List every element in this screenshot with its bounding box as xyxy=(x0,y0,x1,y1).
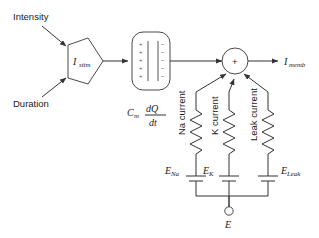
capacitor-block[interactable]: + + + + + − − − − − xyxy=(132,32,170,90)
capacitance-coefficient-main: C xyxy=(127,107,134,118)
summing-junction[interactable]: + xyxy=(222,48,248,74)
leak-battery-sub: Leak xyxy=(286,170,301,177)
svg-text:−: − xyxy=(161,41,165,47)
potassium-current-label: K current xyxy=(209,96,220,135)
formula-numerator: dQ xyxy=(146,103,159,114)
branch-leak[interactable]: Leak current E Leak xyxy=(248,88,301,196)
ground-terminal[interactable]: E xyxy=(224,196,233,230)
duration-label: Duration xyxy=(13,98,49,109)
branch-potassium[interactable]: K current E K xyxy=(202,96,239,207)
ground-terminal-label: E xyxy=(224,219,231,230)
sodium-battery-sub: Na xyxy=(170,170,180,177)
diagram-canvas: Intensity Duration I stim + + + xyxy=(0,0,319,238)
svg-text:+: + xyxy=(139,41,143,47)
svg-text:−: − xyxy=(161,73,165,79)
svg-text:−: − xyxy=(161,65,165,71)
capacitor-negative-charges: − − − − − xyxy=(161,41,165,79)
svg-text:−: − xyxy=(161,57,165,63)
capacitance-coefficient-sub: m xyxy=(134,112,139,119)
leak-current-label: Leak current xyxy=(248,88,259,141)
capacitor-positive-charges: + + + + + xyxy=(139,41,143,79)
stimulus-block[interactable]: I stim xyxy=(68,38,103,84)
sum-operator: + xyxy=(232,56,238,67)
stimulus-label-sub: stim xyxy=(79,61,90,68)
svg-text:+: + xyxy=(139,57,143,63)
potassium-battery-sub: K xyxy=(208,170,214,177)
capacitance-formula: C m dQ dt xyxy=(127,103,166,128)
stimulus-label-main: I xyxy=(72,56,77,67)
svg-text:−: − xyxy=(161,49,165,55)
output-label-sub: memb xyxy=(289,61,306,68)
svg-text:+: + xyxy=(139,49,143,55)
intensity-label: Intensity xyxy=(13,11,49,22)
sodium-current-label: Na current xyxy=(176,90,187,135)
branch-sodium[interactable]: Na current E Na xyxy=(164,90,206,196)
output-label-main: I xyxy=(283,56,288,67)
svg-text:+: + xyxy=(139,73,143,79)
duration-input-arrow xyxy=(42,78,66,97)
svg-text:+: + xyxy=(139,65,143,71)
formula-denominator: dt xyxy=(149,117,157,128)
membrane-model-diagram: Intensity Duration I stim + + + xyxy=(0,0,319,238)
intensity-input-arrow xyxy=(42,26,66,46)
